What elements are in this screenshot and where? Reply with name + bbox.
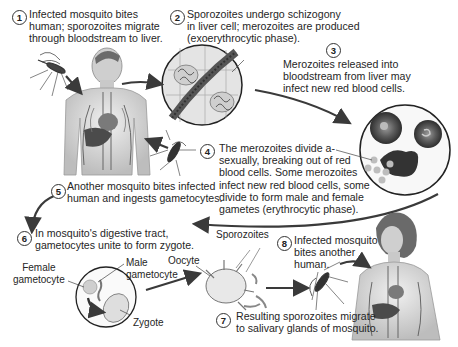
- malaria-life-cycle-diagram: 1 Infected mosquito bites human; sporozo…: [0, 0, 458, 347]
- step-2-number: 2: [170, 10, 185, 25]
- label-zygote: Zygote: [133, 317, 164, 329]
- step-4-number: 4: [200, 144, 215, 159]
- step-5-number: 5: [51, 184, 66, 199]
- label-female-gametocyte: Female gametocyte: [13, 262, 65, 285]
- step-3-number: 3: [326, 43, 341, 58]
- red-blood-cells-magnified: [360, 105, 450, 195]
- liver-cell-magnified: [162, 45, 242, 125]
- step-6-number: 6: [17, 231, 32, 246]
- arrow-mosquito-bites-human: [148, 140, 168, 148]
- human-male-figure: [64, 48, 150, 175]
- step-1-text: Infected mosquito bites human; sporozoit…: [29, 8, 163, 45]
- step-5-text: Another mosquito bites infected human an…: [67, 180, 222, 204]
- step-8-number: 8: [277, 236, 292, 251]
- step-7-text: Resulting sporozoites migrate to salivar…: [236, 310, 379, 334]
- step-7-number: 7: [216, 313, 231, 328]
- step-4-text: The merozoites divide a- sexually, break…: [219, 142, 370, 215]
- step-8-text: Infected mosquito bites another human.: [294, 234, 378, 271]
- step-2-text: Sporozoites undergo schizogony in liver …: [187, 8, 360, 45]
- mosquito-icon: [30, 52, 68, 96]
- step-6-text: In mosquito's digestive tract, gametocyt…: [35, 227, 194, 251]
- oocyte-illustration: [206, 248, 266, 310]
- label-oocyte: Oocyte: [168, 255, 200, 267]
- arrow-step5-to-step6: [32, 196, 54, 230]
- step-1-number: 1: [12, 10, 27, 25]
- arrow-human-to-liver: [122, 82, 160, 84]
- label-sporozoites: Sporozoites: [216, 229, 269, 241]
- mosquito-icon: [150, 130, 196, 176]
- step-3-text: Merozoites released into bloodstream fro…: [283, 58, 411, 95]
- arrow-liver-to-rbc: [255, 90, 348, 122]
